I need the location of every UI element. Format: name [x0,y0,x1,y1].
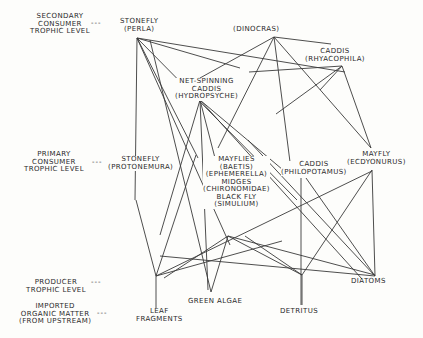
link-protonemura-leaf [136,200,156,276]
link-simulium-algae [211,236,228,292]
node-line: DIATOMS [351,278,386,286]
level-dash: --- [91,279,102,287]
node-diatoms: DIATOMS [351,278,386,286]
level-line: TROPHIC LEVEL [26,287,86,295]
link-ecdyonurus-diatoms [372,170,375,276]
link-dinocras-rhyacophila [274,37,331,44]
link-ecdyonurus-detritus [302,170,372,275]
link-mayflies-detritus [245,236,302,275]
level-line: (FROM UPSTREAM) [19,318,91,326]
node-caddis-philopotamus: CADDIS (PHILOPOTAMUS) [281,161,347,176]
node-line: GREEN ALGAE [188,298,242,306]
link-perla-hydropsyche [137,38,240,68]
node-mayflies-midges-blackfly: MAYFLIES (BAETIS) (EPHEMERELLA) MIDGES (… [203,156,270,209]
link-rhyacophila-ecdyonurus [342,66,371,148]
link-simulium-detritus [228,236,302,275]
node-leaf-fragments: LEAF FRAGMENTS [136,308,183,323]
node-line: (RHYACOPHILA) [305,56,365,64]
node-line: (PROTONEMURA) [108,164,173,172]
level-line: TROPHIC LEVEL [30,28,90,36]
level-dash: --- [97,310,108,318]
level-line: TROPHIC LEVEL [24,166,84,174]
node-line: (SIMULIUM) [203,201,270,209]
link-leaf-up-right [156,241,282,276]
node-line: DETRITUS [280,308,318,316]
primary-consumer-level-label: PRIMARY CONSUMER TROPHIC LEVEL [24,151,84,174]
link-dinocras-hydropsyche [200,37,274,78]
level-dash: --- [92,159,103,167]
node-line: FRAGMENTS [136,316,183,324]
node-line: (PERLA) [120,26,158,34]
producer-level-label: PRODUCER TROPHIC LEVEL [26,279,86,294]
link-philopotamus-diatoms [306,178,375,276]
node-line: (HYDROPSYCHE) [175,93,238,101]
node-line: (ECDYONURUS) [347,159,406,167]
link-perla-protonemura [135,38,137,200]
node-dinocras: (DINOCRAS) [233,26,279,34]
link-dinocras-philopotamus [274,37,290,162]
node-line: (DINOCRAS) [233,26,279,34]
level-dash: --- [91,20,102,28]
link-rhyacophila-mayflies [276,66,342,114]
node-detritus: DETRITUS [280,308,318,316]
node-stonefly-perla: STONEFLY (PERLA) [120,18,158,33]
node-mayfly-ecdyonurus: MAYFLY (ECDYONURUS) [347,151,406,166]
node-green-algae: GREEN ALGAE [188,298,242,306]
imported-organic-matter-label: IMPORTED ORGANIC MATTER (FROM UPSTREAM) [19,303,91,326]
secondary-consumer-level-label: SECONDARY CONSUMER TROPHIC LEVEL [30,13,90,36]
node-line: (PHILOPOTAMUS) [281,169,347,177]
node-stonefly-protonemura: STONEFLY (PROTONEMURA) [108,156,173,171]
node-caddis-rhyacophila: CADDIS (RHYACOPHILA) [305,48,365,63]
node-net-spinning-caddis-hydropsyche: NET-SPINNING CADDIS (HYDROPSYCHE) [175,78,238,101]
